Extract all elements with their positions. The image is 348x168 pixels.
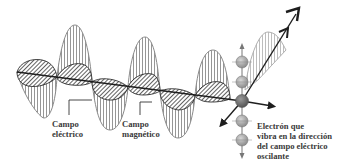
electron-label-line3: del campo eléctrico	[257, 141, 332, 151]
electron-oscillation-column	[232, 43, 252, 159]
electron-label: Electrón que vibra en la dirección del c…	[257, 121, 332, 161]
electron-center	[236, 95, 249, 108]
electric-field-label: Campo eléctrico	[52, 119, 83, 139]
magnetic-field-label-line1: Campo	[122, 119, 160, 129]
electric-field-label-line2: eléctrico	[52, 129, 83, 139]
magnetic-leader-line	[140, 102, 152, 115]
magnetic-field-label-line2: magnético	[122, 129, 160, 139]
electron-label-line2: vibra en la dirección	[257, 131, 332, 141]
electric-field-label-line1: Campo	[52, 119, 83, 129]
electron-label-line4: oscilante	[257, 151, 332, 161]
arrow-down-icon	[240, 153, 245, 159]
magnetic-field-label: Campo magnético	[122, 119, 160, 139]
arrow-up-icon	[240, 43, 245, 49]
electric-leader-line	[69, 100, 92, 115]
electron-label-line1: Electrón que	[257, 121, 332, 131]
